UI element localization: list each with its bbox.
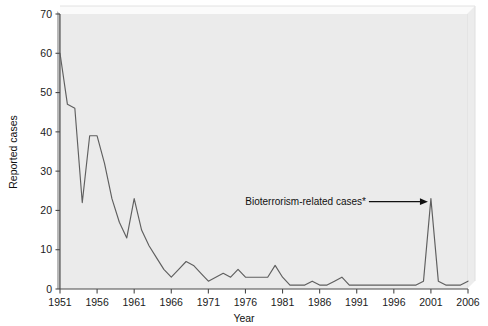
x-tick-label: 1956 <box>85 296 109 308</box>
x-tick-label: 1971 <box>197 296 221 308</box>
plot-area <box>60 14 467 289</box>
y-tick-label: 70 <box>40 8 52 20</box>
x-tick-label: 1991 <box>345 296 369 308</box>
x-tick-label: 2001 <box>419 296 443 308</box>
y-tick-label: 40 <box>40 126 52 138</box>
x-tick-label: 1976 <box>234 296 258 308</box>
x-tick-label: 2006 <box>456 296 480 308</box>
x-tick-label: 1981 <box>271 296 295 308</box>
x-tick-label: 1986 <box>308 296 332 308</box>
anthrax-reported-cases-line-chart: 1951195619611966197119761981198619911996… <box>0 0 488 326</box>
x-tick-label: 1951 <box>48 296 72 308</box>
y-tick-label: 10 <box>40 243 52 255</box>
y-tick-label: 50 <box>40 86 52 98</box>
x-tick-label: 1996 <box>382 296 406 308</box>
x-axis-title: Year <box>233 312 255 324</box>
chart-figure: 1951195619611966197119761981198619911996… <box>0 0 488 326</box>
annotation-label: Bioterrorism-related cases* <box>245 196 366 207</box>
y-tick-label: 0 <box>46 283 52 295</box>
y-tick-label: 60 <box>40 47 52 59</box>
x-tick-label: 1966 <box>160 296 184 308</box>
y-axis-title: Reported cases <box>7 115 19 189</box>
y-tick-label: 20 <box>40 204 52 216</box>
x-tick-label: 1961 <box>123 296 147 308</box>
y-tick-label: 30 <box>40 165 52 177</box>
